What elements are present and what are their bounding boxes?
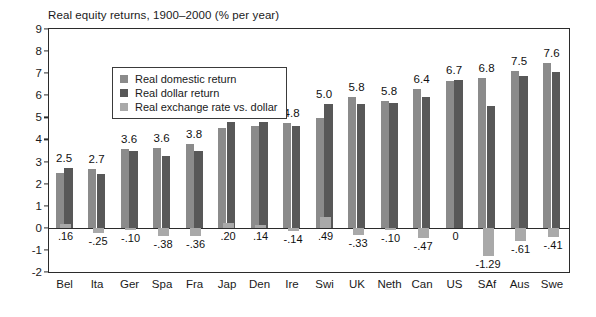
exchange-rate-value-label: -.25: [89, 235, 108, 247]
bar-domestic-return: [153, 148, 161, 228]
x-axis-category-label: Fra: [186, 278, 203, 290]
bar-exchange-rate: [125, 228, 136, 230]
exchange-rate-value-label: .20: [220, 230, 235, 242]
legend-item: Real domestic return: [120, 72, 277, 86]
bar-dollar-return: [64, 168, 72, 228]
bar-value-label: 3.6: [154, 132, 170, 144]
bar-group: 7.5-.61: [504, 29, 537, 272]
bar-domestic-return: [283, 123, 291, 228]
x-axis-category-label: Ire: [285, 278, 298, 290]
bar-dollar-return: [162, 156, 170, 228]
bar-exchange-rate: [418, 228, 429, 238]
exchange-rate-value-label: .49: [318, 230, 333, 242]
bar-dollar-return: [454, 80, 462, 228]
bar-dollar-return: [357, 104, 365, 228]
legend-label-exchange: Real exchange rate vs. dollar: [135, 101, 277, 113]
x-axis-category-label: SAf: [478, 278, 497, 290]
x-axis-category-label: Aus: [510, 278, 530, 290]
bar-domestic-return: [218, 128, 226, 228]
bar-group: 5.0.49: [309, 29, 342, 272]
x-axis-category-label: Swe: [541, 278, 563, 290]
bar-exchange-rate: [320, 217, 331, 228]
bar-group: 6.4-.47: [407, 29, 440, 272]
legend-label-domestic: Real domestic return: [135, 73, 237, 85]
bar-domestic-return: [88, 169, 96, 228]
bar-dollar-return: [194, 151, 202, 228]
exchange-rate-value-label: -.36: [186, 238, 205, 250]
bar-domestic-return: [511, 71, 519, 228]
exchange-rate-value-label: -.14: [284, 233, 303, 245]
bar-domestic-return: [478, 78, 486, 228]
bar-value-label: 2.5: [56, 152, 72, 164]
bar-exchange-rate: [515, 228, 526, 241]
legend-swatch-exchange-icon: [120, 103, 128, 111]
bar-value-label: 6.7: [446, 64, 462, 76]
legend-swatch-domestic-icon: [120, 75, 128, 83]
bar-exchange-rate: [288, 228, 299, 231]
bar-domestic-return: [186, 144, 194, 228]
exchange-rate-value-label: -.38: [154, 238, 173, 250]
exchange-rate-value-label: -.47: [414, 240, 433, 252]
x-axis-category-label: US: [447, 278, 463, 290]
bar-group: 5.8-.10: [374, 29, 407, 272]
bar-dollar-return: [324, 104, 332, 228]
bar-group: 3.6-.38: [147, 29, 180, 272]
bar-exchange-rate: [255, 225, 266, 228]
bar-group: 2.5.16: [49, 29, 82, 272]
bar-exchange-rate: [483, 228, 494, 256]
bar-exchange-rate: [353, 228, 364, 235]
bar-value-label: 7.6: [544, 47, 560, 59]
legend-label-dollar: Real dollar return: [135, 87, 219, 99]
bar-group: 6.70: [439, 29, 472, 272]
bar-value-label: 2.7: [89, 153, 105, 165]
bar-dollar-return: [519, 76, 527, 227]
bar-domestic-return: [446, 81, 454, 228]
bar-value-label: 6.8: [479, 62, 495, 74]
bar-exchange-rate: [385, 228, 396, 230]
bar-group: 4.8-.14: [277, 29, 310, 272]
x-axis-category-label: Jap: [218, 278, 237, 290]
bar-dollar-return: [389, 103, 397, 228]
bar-group: 4.5.20: [212, 29, 245, 272]
legend-item: Real exchange rate vs. dollar: [120, 100, 277, 114]
exchange-rate-value-label: .16: [58, 230, 73, 242]
bar-dollar-return: [422, 97, 430, 227]
x-axis-category-label: Can: [411, 278, 432, 290]
exchange-rate-value-label: -.61: [511, 243, 530, 255]
bar-domestic-return: [543, 63, 551, 228]
plot-area: 9876543210-1-22.5.162.7-.253.6-.103.6-.3…: [49, 29, 569, 272]
x-axis-category-label: Swi: [315, 278, 334, 290]
legend-item: Real dollar return: [120, 86, 277, 100]
x-axis-category-label: Ita: [91, 278, 104, 290]
bar-group: 2.7-.25: [82, 29, 115, 272]
bar-group: 4.6.14: [244, 29, 277, 272]
x-axis-category-label: Den: [249, 278, 270, 290]
bar-value-label: 5.0: [316, 88, 332, 100]
bar-value-label: 7.5: [511, 55, 527, 67]
bar-dollar-return: [487, 106, 495, 228]
bar-exchange-rate: [93, 228, 104, 234]
exchange-rate-value-label: -.33: [349, 237, 368, 249]
exchange-rate-value-label: 0: [452, 230, 458, 242]
bar-exchange-rate: [158, 228, 169, 236]
bar-value-label: 6.4: [414, 73, 430, 85]
bar-group: 3.8-.36: [179, 29, 212, 272]
exchange-rate-value-label: -.10: [121, 232, 140, 244]
x-axis-category-label: Ger: [120, 278, 139, 290]
bar-dollar-return: [129, 151, 137, 228]
bar-dollar-return: [292, 126, 300, 228]
bar-domestic-return: [251, 126, 259, 228]
bar-exchange-rate: [223, 223, 234, 227]
x-axis-category-label: UK: [349, 278, 365, 290]
bar-domestic-return: [121, 149, 129, 227]
bar-domestic-return: [316, 118, 324, 228]
bar-dollar-return: [552, 72, 560, 228]
bar-value-label: 3.8: [186, 128, 202, 140]
x-axis-category-label: Neth: [377, 278, 401, 290]
bar-dollar-return: [97, 174, 105, 227]
exchange-rate-value-label: -.10: [381, 232, 400, 244]
chart-legend: Real domestic return Real dollar return …: [112, 67, 287, 119]
bar-domestic-return: [348, 97, 356, 227]
bar-exchange-rate: [190, 228, 201, 236]
x-axis-category-label: Spa: [152, 278, 172, 290]
